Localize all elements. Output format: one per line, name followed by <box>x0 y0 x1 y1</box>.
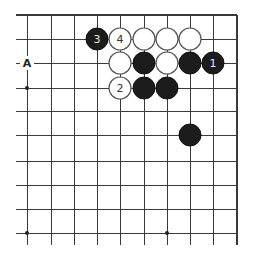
white-stone <box>109 52 131 74</box>
white-stone-disc <box>109 52 131 74</box>
black-stone-disc <box>179 124 201 146</box>
white-stone <box>179 28 201 50</box>
white-stone <box>156 28 178 50</box>
white-stone <box>156 52 178 74</box>
star-point <box>25 231 29 235</box>
black-stone <box>179 52 201 74</box>
black-stone <box>133 77 155 99</box>
black-stone-disc <box>133 52 155 74</box>
black-stone-disc <box>133 77 155 99</box>
black-stone <box>179 124 201 146</box>
stones: 3412 <box>86 28 224 146</box>
star-point <box>165 231 169 235</box>
point-mark-a: A <box>23 57 32 70</box>
black-stone <box>156 77 178 99</box>
move-number-label: 2 <box>117 82 124 95</box>
move-number-label: 1 <box>210 57 217 70</box>
white-stone-move-2: 2 <box>109 77 131 99</box>
board-grid <box>16 15 237 245</box>
white-stone-disc <box>179 28 201 50</box>
white-stone-disc <box>133 28 155 50</box>
board-marks: A <box>20 56 34 70</box>
black-stone-disc <box>156 77 178 99</box>
black-stone-move-3: 3 <box>86 28 108 50</box>
move-number-label: 3 <box>94 33 101 46</box>
star-point <box>25 86 29 90</box>
go-board-diagram: A 3412 <box>0 0 253 254</box>
black-stone-disc <box>179 52 201 74</box>
black-stone <box>133 52 155 74</box>
white-stone-move-4: 4 <box>109 28 131 50</box>
white-stone <box>133 28 155 50</box>
move-number-label: 4 <box>117 33 124 46</box>
white-stone-disc <box>156 52 178 74</box>
black-stone-move-1: 1 <box>202 52 224 74</box>
white-stone-disc <box>156 28 178 50</box>
